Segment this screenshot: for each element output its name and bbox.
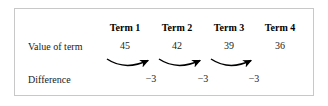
term-header-1: Term 1	[99, 23, 151, 33]
term-value-3: 39	[203, 41, 255, 51]
row-label-value-of-term: Value of term	[28, 42, 82, 52]
difference-value-3: −3	[231, 74, 277, 84]
term-value-2: 42	[151, 41, 203, 51]
term-header-3: Term 3	[203, 23, 255, 33]
term-header-4: Term 4	[254, 23, 306, 33]
sequence-difference-figure: Value of term Difference Term 1 Term 2 T…	[14, 8, 314, 96]
term-header-2: Term 2	[151, 23, 203, 33]
arrow-term1-to-term2	[107, 59, 148, 65]
term-value-1: 45	[99, 41, 151, 51]
difference-value-2: −3	[180, 74, 226, 84]
term-value-4: 36	[254, 41, 306, 51]
arrow-term2-to-term3	[159, 59, 200, 65]
row-label-difference: Difference	[28, 75, 71, 85]
arrow-term3-to-term4	[211, 59, 251, 65]
difference-value-1: −3	[128, 74, 174, 84]
